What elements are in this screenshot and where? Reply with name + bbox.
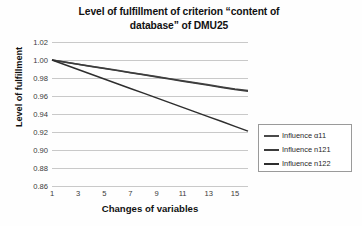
y-tick-label-1: 1.00 bbox=[14, 56, 48, 65]
y-tick-label-7: 0.88 bbox=[14, 164, 48, 173]
x-tick-label-1: 3 bbox=[69, 189, 87, 198]
chart-container: Level of fulfillment of criterion “conte… bbox=[0, 0, 362, 226]
x-tick-label-5: 11 bbox=[174, 189, 192, 198]
y-tick-label-4: 0.94 bbox=[14, 110, 48, 119]
chart-legend: Influence α11 Influence n121 Influence n… bbox=[258, 124, 352, 172]
legend-item-2[interactable]: Influence n122 bbox=[264, 157, 351, 170]
x-axis-tick-labels: 13579111315 bbox=[52, 189, 248, 201]
x-tick-label-6: 13 bbox=[200, 189, 218, 198]
legend-label-1: Influence n121 bbox=[282, 145, 331, 154]
chart-title-line-2: database” of DMU25 bbox=[130, 20, 228, 31]
y-tick-label-3: 0.96 bbox=[14, 92, 48, 101]
x-tick-label-4: 9 bbox=[148, 189, 166, 198]
chart-title-line-1: Level of fulfillment of criterion “conte… bbox=[79, 6, 280, 17]
x-tick-label-7: 15 bbox=[226, 189, 244, 198]
chart-title: Level of fulfillment of criterion “conte… bbox=[44, 5, 314, 33]
legend-label-0: Influence α11 bbox=[282, 131, 326, 140]
y-tick-label-2: 0.98 bbox=[14, 74, 48, 83]
plot-area bbox=[52, 42, 248, 186]
y-axis-tick-labels: 1.021.000.980.960.940.920.900.880.86 bbox=[12, 42, 48, 186]
legend-line-swatch-0 bbox=[264, 135, 279, 137]
x-tick-label-3: 7 bbox=[121, 189, 139, 198]
y-tick-label-5: 0.92 bbox=[14, 128, 48, 137]
gridline-8 bbox=[52, 186, 248, 187]
x-axis-title: Changes of variables bbox=[52, 203, 248, 214]
y-tick-label-6: 0.90 bbox=[14, 146, 48, 155]
x-tick-label-2: 5 bbox=[95, 189, 113, 198]
legend-item-1[interactable]: Influence n121 bbox=[264, 143, 351, 156]
legend-label-2: Influence n122 bbox=[282, 159, 331, 168]
legend-item-0[interactable]: Influence α11 bbox=[264, 129, 351, 142]
legend-line-swatch-1 bbox=[264, 149, 279, 151]
series-line-1 bbox=[52, 60, 248, 91]
y-tick-label-0: 1.02 bbox=[14, 38, 48, 47]
x-tick-label-0: 1 bbox=[43, 189, 61, 198]
series-lines bbox=[52, 42, 248, 186]
series-line-2 bbox=[52, 60, 248, 131]
legend-line-swatch-2 bbox=[264, 163, 279, 165]
